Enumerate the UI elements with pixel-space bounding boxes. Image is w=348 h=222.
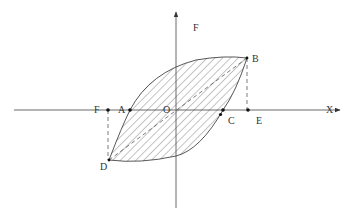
point-e-label: E — [256, 115, 262, 126]
x-axis-label: X — [326, 104, 334, 115]
point-b-dot — [246, 57, 249, 60]
point-e-dot — [246, 108, 250, 112]
point-d-dot — [108, 159, 111, 162]
point-d-label: D — [100, 161, 107, 172]
point-f-dot — [106, 108, 110, 112]
f-axis-label: F — [193, 22, 199, 33]
point-c-lower-dot — [219, 113, 222, 116]
point-f-label: F — [94, 104, 100, 115]
point-b-label: B — [252, 53, 259, 64]
point-c-label: C — [228, 115, 235, 126]
point-a-dot — [128, 108, 132, 112]
origin-label: O — [163, 104, 170, 115]
hysteresis-diagram: F X O B F A C E D — [0, 0, 348, 222]
point-c-dot — [221, 108, 225, 112]
point-a-label: A — [118, 104, 126, 115]
